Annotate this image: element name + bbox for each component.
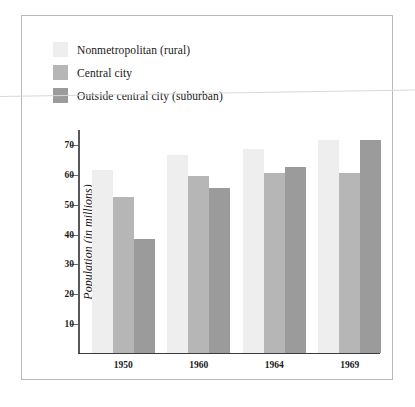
x-axis-line (78, 353, 380, 355)
legend-item: Nonmetropolitan (rural) (53, 38, 223, 61)
y-axis-tick-label: 20 (65, 289, 75, 299)
plot-area: Population (in millions) 10203040506070 … (78, 130, 380, 354)
bar (113, 197, 134, 352)
bar (188, 176, 209, 352)
bar (285, 167, 306, 352)
legend-swatch-icon (53, 65, 68, 80)
x-axis-tick-label: 1964 (265, 360, 284, 370)
bar (243, 149, 264, 352)
bar-group: 1950 (92, 130, 155, 353)
chart-figure-panel: Nonmetropolitan (rural)Central cityOutsi… (21, 15, 393, 380)
legend-swatch-icon (53, 42, 68, 57)
y-axis-tick-label: 10 (65, 319, 75, 329)
y-axis-tick-label: 30 (65, 259, 75, 269)
legend-item: Outside central city (suburban) (53, 84, 223, 107)
y-axis-tick-label: 40 (65, 230, 75, 240)
y-axis-tick-label: 70 (65, 140, 75, 150)
legend-item: Central city (53, 61, 223, 84)
bar (167, 155, 188, 352)
bar (360, 140, 381, 352)
chart-legend: Nonmetropolitan (rural)Central cityOutsi… (53, 38, 223, 107)
legend-item-label: Nonmetropolitan (rural) (77, 44, 190, 56)
bar-group: 1964 (243, 130, 306, 353)
bar (318, 140, 339, 352)
bars-layer: 1950196019641969 (80, 130, 381, 353)
bar-group: 1969 (318, 130, 381, 353)
bar (264, 173, 285, 352)
legend-swatch-icon (53, 88, 68, 103)
x-axis-tick-label: 1950 (114, 360, 133, 370)
x-axis-tick-label: 1960 (189, 360, 208, 370)
bar (92, 170, 113, 352)
legend-item-label: Outside central city (suburban) (77, 90, 223, 102)
y-axis-tick-label: 60 (65, 170, 75, 180)
bar-group: 1960 (167, 130, 230, 353)
legend-item-label: Central city (77, 67, 132, 79)
bar (134, 239, 155, 352)
bar (339, 173, 360, 352)
x-axis-tick-label: 1969 (340, 360, 359, 370)
bar (209, 188, 230, 352)
y-axis-tick-label: 50 (65, 200, 75, 210)
